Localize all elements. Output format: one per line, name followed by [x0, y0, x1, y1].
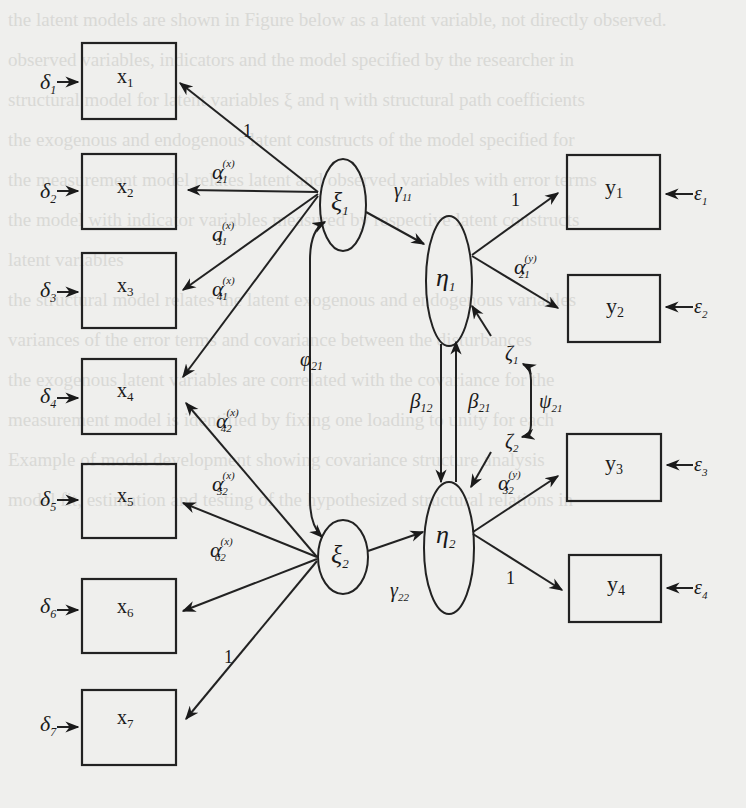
delta5-label: δ5: [40, 486, 56, 514]
loading-y1-label: 1: [511, 190, 520, 210]
x7-label: x7: [117, 706, 134, 731]
loading-y4-label: 1: [506, 568, 515, 588]
x5-label: x5: [117, 484, 134, 509]
loading-y3-label: α(y)32: [498, 468, 521, 496]
loading-x5-label: α(x)52: [212, 469, 235, 497]
x-indicators: [82, 43, 176, 765]
loading-x4b-label: α(x)42: [216, 406, 239, 434]
y1-label: y1: [605, 174, 623, 201]
delta4-label: δ4: [40, 383, 56, 411]
delta2-label: δ2: [40, 178, 56, 206]
psi21-covariance-arrow: [522, 364, 531, 437]
zeta2-arrow: [471, 452, 491, 487]
delta7-label: δ7: [40, 711, 57, 739]
loading-x4-label: α(x)41: [212, 274, 235, 302]
beta12-label: β12: [409, 389, 432, 415]
x2-label: x2: [117, 175, 134, 200]
loading-x6-label: α(x)62: [210, 535, 233, 563]
eta1-label: η1: [436, 263, 455, 294]
x1-label: x1: [117, 65, 134, 90]
y3-label: y3: [605, 450, 623, 477]
psi21-label: ψ21: [539, 390, 562, 414]
beta21-label: β21: [467, 389, 490, 415]
xi2-loading-arrows: [183, 403, 317, 719]
epsilon3-label: ε3: [694, 453, 708, 478]
loading-x7-label: 1: [224, 647, 233, 667]
phi21-covariance-arrow: [310, 222, 325, 537]
phi21-label: φ21: [300, 348, 323, 373]
epsilon4-label: ε4: [694, 576, 708, 601]
y2-label: y2: [606, 293, 624, 320]
zeta2-label: ζ2: [505, 430, 519, 454]
gamma11-arrow: [366, 212, 424, 244]
xi2-label: ξ2: [331, 540, 349, 571]
zeta1-arrow: [472, 306, 491, 336]
y4-label: y4: [607, 571, 625, 598]
loading-x3-label: a(x)31: [212, 219, 235, 247]
loading-y2-label: α(y)21: [514, 252, 537, 280]
x6-label: x6: [117, 595, 134, 620]
loading-x1-label: 1: [243, 121, 252, 141]
delta1-label: δ1: [40, 69, 56, 97]
delta3-label: δ3: [40, 277, 56, 305]
epsilon-arrows: [666, 194, 693, 588]
y-indicators: [567, 155, 661, 622]
loading-x2-label: α(x)21: [212, 157, 235, 185]
epsilon2-label: ε2: [694, 295, 708, 320]
xi1-label: ξ1: [331, 187, 349, 218]
sem-diagram: x1 x2 x3 x4 x5 x6 x7 δ1 δ2 δ3 δ4 δ5 δ6 δ…: [0, 0, 746, 808]
delta6-label: δ6: [40, 593, 56, 621]
delta-arrows: [57, 82, 78, 727]
gamma22-arrow: [368, 532, 423, 551]
x4-label: x4: [117, 379, 134, 404]
epsilon1-label: ε1: [694, 182, 707, 207]
x3-label: x3: [117, 274, 134, 299]
zeta1-label: ζ1: [505, 342, 519, 366]
gamma11-label: γ11: [394, 179, 412, 203]
gamma22-label: γ22: [390, 579, 409, 603]
eta2-label: η2: [436, 520, 456, 551]
